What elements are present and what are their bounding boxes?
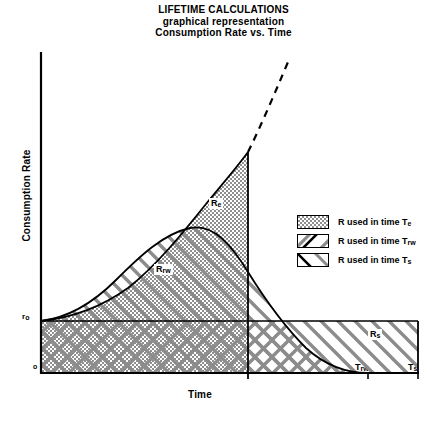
- legend-item-trw: R used in time Trw: [297, 232, 416, 250]
- chart-legend: R used in time Te R used in time Trw: [297, 213, 416, 270]
- legend-swatch-ts: [297, 253, 329, 267]
- legend-label-trw: R used in time Trw: [338, 236, 416, 247]
- region-label-rs: Rs: [368, 329, 382, 340]
- legend-label-te: R used in time Te: [338, 217, 411, 228]
- legend-swatch-te: [297, 215, 329, 229]
- legend-item-ts: R used in time Ts: [297, 251, 416, 269]
- legend-swatch-trw: [297, 234, 329, 248]
- legend-item-te: R used in time Te: [297, 213, 416, 231]
- curve-exponential-extrapolated: [248, 62, 288, 152]
- region-label-rrw: Rrw: [154, 264, 173, 275]
- chart-figure: LIFETIME CALCULATIONS graphical represen…: [0, 0, 447, 427]
- region-label-re: Re: [209, 198, 223, 209]
- legend-label-ts: R used in time Ts: [338, 255, 411, 266]
- region-band-left-fill: [41, 321, 248, 373]
